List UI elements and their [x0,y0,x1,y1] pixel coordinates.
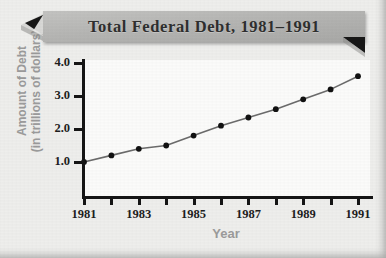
x-axis-tick [83,196,86,205]
title-banner: Total Federal Debt, 1981–1991 [21,11,365,44]
y-axis-tick-label: 2.0 [54,121,70,136]
x-axis-title: Year [82,226,370,241]
y-axis-tick-label: 4.0 [54,55,70,70]
y-axis-tick [74,128,83,131]
x-axis-tick [275,196,278,205]
y-axis-tick [74,62,83,65]
x-axis-tick [110,196,113,205]
x-axis-tick [357,196,360,205]
figure-chart-federal-debt: Total Federal Debt, 1981–1991 Amount of … [0,0,386,258]
x-axis-tick [220,196,223,205]
x-axis-tick [330,196,333,205]
x-axis-tick-label: 1989 [291,207,316,222]
y-axis-tick [74,95,83,98]
chart-title: Total Federal Debt, 1981–1991 [43,11,365,42]
y-axis-tick-label: 3.0 [54,88,70,103]
x-axis-tick-label: 1987 [236,207,261,222]
x-axis-tick [165,196,168,205]
x-axis-tick-label: 1991 [346,207,371,222]
plot-area [82,60,370,196]
x-axis-tick [193,196,196,205]
x-axis-tick [138,196,141,205]
x-axis-tick-label: 1983 [126,207,151,222]
x-axis-tick [247,196,250,205]
y-axis-tick-label: 1.0 [54,154,70,169]
x-axis-tick-label: 1981 [72,207,97,222]
x-axis-tick [302,196,305,205]
y-axis-tick [74,161,83,164]
x-axis-tick-label: 1985 [181,207,206,222]
